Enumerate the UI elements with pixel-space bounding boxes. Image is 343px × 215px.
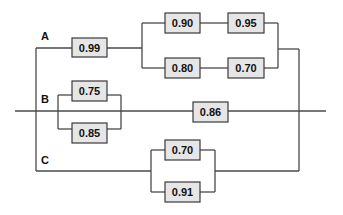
svg-text:0.75: 0.75 — [79, 85, 100, 97]
svg-text:0.85: 0.85 — [79, 127, 100, 139]
wires — [15, 23, 326, 192]
svg-text:0.70: 0.70 — [235, 62, 256, 74]
svg-text:0.80: 0.80 — [172, 62, 193, 74]
svg-text:0.90: 0.90 — [172, 17, 193, 29]
svg-text:0.95: 0.95 — [235, 17, 256, 29]
component-c2: 0.91 — [165, 182, 200, 202]
svg-text:0.86: 0.86 — [200, 106, 221, 118]
path-label-c: C — [41, 154, 49, 166]
path-label-a: A — [41, 30, 49, 42]
component-a4: 0.80 — [165, 58, 200, 78]
svg-text:0.91: 0.91 — [172, 186, 193, 198]
component-c1: 0.70 — [165, 140, 200, 160]
reliability-diagram: A B C 0.99 0.90 0.95 0.80 0.70 0.75 0.85… — [0, 0, 343, 215]
component-b1: 0.75 — [72, 81, 107, 101]
svg-text:0.99: 0.99 — [79, 42, 100, 54]
component-a2: 0.90 — [165, 13, 200, 33]
svg-text:0.70: 0.70 — [172, 144, 193, 156]
component-a3: 0.95 — [228, 13, 264, 33]
component-b3: 0.86 — [193, 102, 228, 122]
component-a1: 0.99 — [72, 38, 107, 57]
component-b2: 0.85 — [72, 123, 107, 143]
path-label-b: B — [41, 93, 49, 105]
component-a5: 0.70 — [228, 58, 264, 78]
